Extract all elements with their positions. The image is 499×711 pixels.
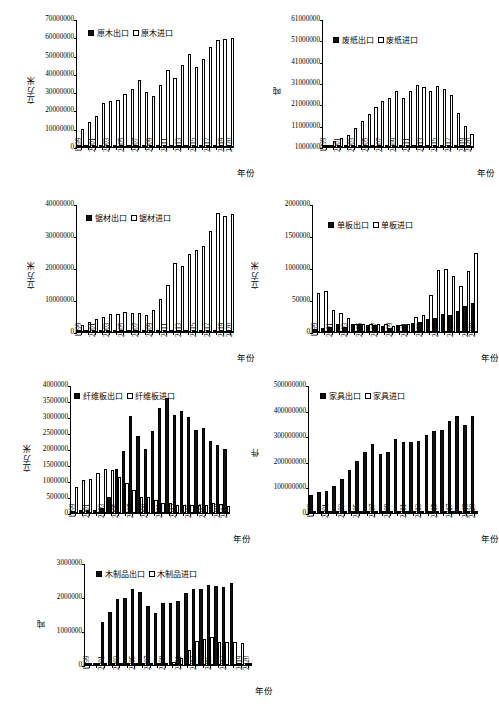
bar-group xyxy=(426,20,433,147)
x-axis-tick-label: 2015 xyxy=(432,138,439,152)
bar-group xyxy=(91,205,98,332)
legend-label: 纤维板出口 xyxy=(83,390,123,401)
x-axis-label-cell xyxy=(179,517,186,547)
x-axis-label-cell: 2001 xyxy=(90,151,97,181)
x-axis-label-cell xyxy=(213,336,220,366)
x-axis-label-cell: 2015 xyxy=(432,517,440,547)
x-axis-tick-mark xyxy=(172,665,173,668)
y-axis-ticks-furniture: 0100000000200000000300000000400000000500… xyxy=(250,378,306,514)
x-axis-label-cell: 2020 xyxy=(227,151,234,181)
x-axis-label-cell: 2009 xyxy=(387,336,395,366)
y-axis-tick-mark xyxy=(320,105,323,106)
x-axis-label-cell: 2020 xyxy=(227,336,234,366)
x-axis-tick-label: 2001 xyxy=(90,138,97,152)
x-axis-label-cell xyxy=(398,151,405,181)
x-axis-label-cell: 2005 xyxy=(357,336,365,366)
bar-group xyxy=(156,205,163,332)
x-axis-tick-label: 2007 xyxy=(128,504,135,518)
bar-group xyxy=(220,20,227,147)
legend-item: 木制品进口 xyxy=(149,568,198,579)
legend-label: 木制品进口 xyxy=(157,568,197,579)
y-axis-tick-label: 21000000 xyxy=(291,102,320,109)
y-axis-tick-label: 500000 xyxy=(46,494,68,501)
plot-area-wood-products xyxy=(84,564,252,666)
y-axis-tick-mark xyxy=(74,205,77,206)
x-axis-tick-mark xyxy=(96,665,97,668)
bar-import xyxy=(231,38,234,147)
y-axis-tick-mark xyxy=(68,450,71,451)
bar-group xyxy=(170,205,177,332)
x-axis-tick-mark xyxy=(183,513,184,516)
bar-group xyxy=(229,564,237,665)
x-axis-label-cell xyxy=(329,151,336,181)
x-axis-label-cell xyxy=(380,336,388,366)
x-axis-tick-label: 2015 xyxy=(186,504,193,518)
x-axis-label-cell xyxy=(393,517,401,547)
bar-group xyxy=(213,20,220,147)
y-axis-tick-label: 30000000 xyxy=(45,90,74,97)
bar-group xyxy=(163,20,170,147)
x-axis-label-cell xyxy=(343,151,350,181)
x-axis-label-cell: 2015 xyxy=(433,151,440,181)
x-axis-label-cell xyxy=(198,336,205,366)
x-axis-label-cell xyxy=(455,336,463,366)
x-axis-label-cell xyxy=(378,517,386,547)
bar-group xyxy=(143,386,150,513)
bar-series-furniture xyxy=(309,386,478,513)
x-axis-tick-mark xyxy=(197,513,198,516)
y-axis-tick-label: 400000000 xyxy=(274,408,306,415)
x-axis-label-cell: 2001 xyxy=(99,669,107,699)
legend-swatch-filled-icon xyxy=(328,222,334,228)
x-axis-tick-mark xyxy=(88,332,89,335)
x-axis-tick-mark xyxy=(202,147,203,150)
legend-sawnwood: 锯材出口锯材进口 xyxy=(86,212,171,223)
y-axis-tick-label: 30000000 xyxy=(45,233,74,240)
bar-group xyxy=(417,386,425,513)
y-axis-tick-label: 300000000 xyxy=(274,434,306,441)
x-axis-tick-label: 1999 xyxy=(70,504,77,518)
bar-group xyxy=(463,205,471,332)
y-axis-tick-mark xyxy=(306,463,309,464)
x-axis-label-cell: 2019 xyxy=(220,336,227,366)
bar-group xyxy=(106,20,113,147)
x-axis-label-cell: 2019 xyxy=(237,669,245,699)
bar-group xyxy=(184,20,191,147)
x-axis-tick-label: 2009 xyxy=(161,656,168,670)
x-axis-label-cell xyxy=(92,669,100,699)
x-axis-tick-label: 2001 xyxy=(336,138,343,152)
x-axis-title-wood-products: 年份 xyxy=(255,684,273,696)
x-axis-labels-sawnwood: 1999200120032005200720092011201320152017… xyxy=(76,336,234,366)
y-axis-tick-mark xyxy=(310,237,313,238)
x-axis-label-cell xyxy=(169,336,176,366)
bar-export xyxy=(187,417,190,513)
legend-item: 锯材出口 xyxy=(86,212,127,223)
bar-group xyxy=(386,386,394,513)
y-axis-ticks-sawnwood: 010000000200000003000000040000000 xyxy=(0,193,74,333)
x-axis-tick-label: 2020 xyxy=(467,138,474,152)
legend-item: 单板出口 xyxy=(328,219,369,230)
bar-group xyxy=(165,386,172,513)
legend-furniture: 家具出口家具进口 xyxy=(320,390,405,401)
x-axis-title-fiberboard: 年份 xyxy=(233,532,251,544)
x-axis-tick-mark xyxy=(457,147,458,150)
x-axis-tick-mark xyxy=(188,332,189,335)
y-axis-tick-label: 51000000 xyxy=(291,38,320,45)
legend-label: 废纸进口 xyxy=(386,34,418,45)
x-axis-label-cell xyxy=(395,336,403,366)
x-axis-label-cell xyxy=(168,669,176,699)
x-axis-tick-mark xyxy=(367,513,368,516)
bar-group xyxy=(471,205,479,332)
bar-group xyxy=(244,564,252,665)
y-axis-tick-label: 31000000 xyxy=(291,80,320,87)
bar-group xyxy=(216,386,223,513)
x-axis-tick-mark xyxy=(88,147,89,150)
x-axis-tick-label: 2017 xyxy=(446,138,453,152)
x-axis-label-cell xyxy=(77,517,84,547)
y-axis-tick-mark xyxy=(310,269,313,270)
legend-veneer: 单板出口单板进口 xyxy=(328,219,413,230)
bar-group xyxy=(71,386,78,513)
bar-export xyxy=(158,408,161,513)
x-axis-tick-label: 1999 xyxy=(76,323,83,337)
bar-export xyxy=(440,430,444,513)
